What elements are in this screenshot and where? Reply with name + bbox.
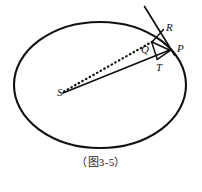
point-label-q: Q [141,44,149,55]
segment-s-q-dotted [64,42,153,92]
figure-caption: （图3-5） [0,156,202,168]
point-label-p: P [177,43,184,54]
segment-s-p [63,50,171,94]
ellipse-curve [14,22,186,148]
point-label-t: T [156,62,162,73]
point-label-r: R [166,22,173,33]
figure-diagram: S Q R P T （图3-5） [0,0,202,192]
point-label-s: S [57,87,63,98]
